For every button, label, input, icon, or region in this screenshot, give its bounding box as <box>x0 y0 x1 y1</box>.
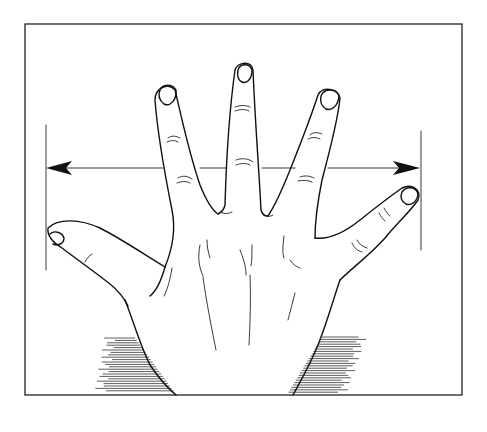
hand-span-diagram <box>0 0 487 432</box>
little-nail <box>401 188 418 205</box>
open-hand <box>48 63 419 395</box>
little-finger <box>315 186 419 280</box>
middle-nail <box>238 65 252 83</box>
ring-finger <box>268 89 340 238</box>
right-shadow-hatching <box>289 337 367 392</box>
border-frame <box>25 24 462 395</box>
thumb-nail <box>50 232 64 245</box>
skin-creases <box>85 106 390 351</box>
diagram-canvas <box>0 0 487 432</box>
palm-left-edge <box>125 267 176 395</box>
ring-nail <box>321 90 339 109</box>
left-shadow-hatching <box>95 338 173 391</box>
middle-finger <box>218 63 268 216</box>
span-arrow <box>46 161 420 175</box>
thumb <box>48 221 165 306</box>
